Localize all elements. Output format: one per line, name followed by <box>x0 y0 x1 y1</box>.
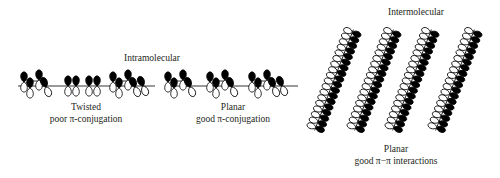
twisted-chain <box>18 70 155 98</box>
planar-caption: good π-conjugation <box>180 114 286 125</box>
stacked-caption: good π−π interactions <box>338 156 454 167</box>
planar-chain <box>165 70 298 98</box>
twisted-ring-right <box>110 70 150 98</box>
twisted-ring-left <box>21 70 53 98</box>
intermolecular-label: Intermolecular <box>376 7 456 18</box>
intramolecular-label: Intramolecular <box>112 53 192 64</box>
stacked-title: Planar <box>355 144 437 155</box>
stacked-chains <box>306 26 483 133</box>
planar-title: Planar <box>192 102 274 113</box>
twisted-title: Twisted <box>45 102 127 113</box>
twisted-caption: poor π-conjugation <box>35 114 137 125</box>
